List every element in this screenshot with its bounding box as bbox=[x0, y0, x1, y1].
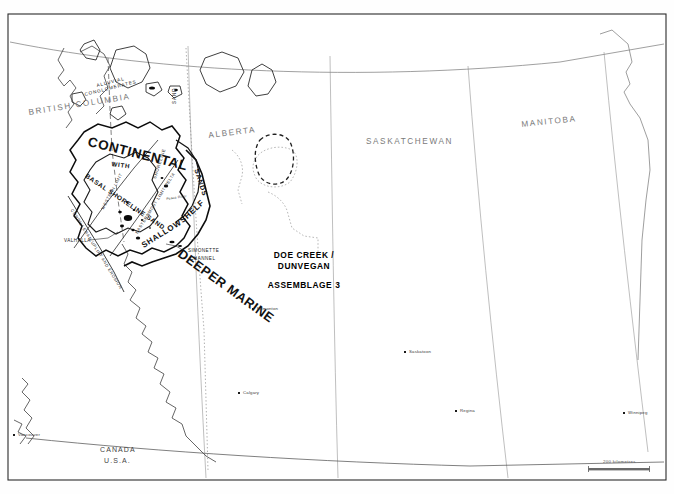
title-line-2: DUNVEGAN bbox=[258, 261, 350, 272]
map-canvas bbox=[0, 0, 674, 494]
title-line-3: ASSEMBLAGE 3 bbox=[258, 280, 350, 291]
assemblage-title-block: DOE CREEK / DUNVEGAN ASSEMBLAGE 3 bbox=[258, 250, 350, 291]
city-dot-winnipeg bbox=[623, 412, 625, 414]
city-dot-saskatoon bbox=[404, 351, 406, 353]
paleogeographic-map: BRITISH COLUMBIA ALBERTA SASKATCHEWAN MA… bbox=[0, 0, 674, 494]
city-dot-edmonton bbox=[252, 308, 254, 310]
city-dot-regina bbox=[455, 410, 457, 412]
title-line-1: DOE CREEK / bbox=[258, 250, 350, 261]
city-dot-calgary bbox=[238, 392, 240, 394]
city-dot-vancouver bbox=[13, 434, 15, 436]
